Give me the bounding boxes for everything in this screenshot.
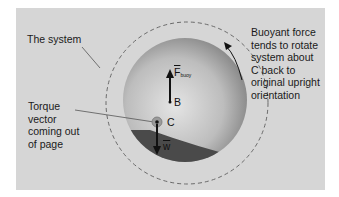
point-C-marker (155, 120, 159, 124)
label-point-B: B (174, 96, 181, 108)
label-point-C: C (167, 116, 175, 128)
label-torque-vector-note: Torque vector coming out of page (28, 100, 79, 150)
vector-F-subscript: buoy (180, 72, 191, 78)
label-buoyant-force: Fbuoy (174, 66, 191, 78)
point-B-marker (169, 101, 172, 104)
label-the-system: The system (27, 33, 81, 46)
label-weight-vector: w (163, 141, 170, 152)
label-buoyant-force-note: Buoyant force tends to rotate system abo… (251, 26, 337, 101)
system-leader-line (82, 47, 100, 68)
